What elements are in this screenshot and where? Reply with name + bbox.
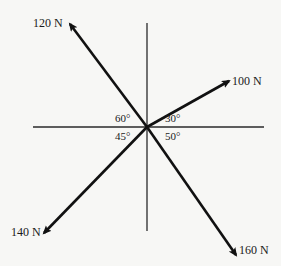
force-vector-100n <box>147 81 229 127</box>
angle-label-50: 50° <box>165 130 180 142</box>
force-label-160n: 160 N <box>239 243 269 257</box>
force-vector-160n <box>147 127 236 255</box>
force-vector-140n <box>44 127 147 233</box>
force-label-100n: 100 N <box>232 74 262 88</box>
angle-label-45: 45° <box>115 130 130 142</box>
force-label-120n: 120 N <box>33 16 63 30</box>
force-label-140n: 140 N <box>11 225 41 239</box>
force-vector-120n <box>70 24 147 127</box>
angle-label-60: 60° <box>115 112 130 124</box>
force-diagram: 120 N 100 N 140 N 160 N 60° 30° 45° 50° <box>0 0 281 266</box>
angle-label-30: 30° <box>165 112 180 124</box>
